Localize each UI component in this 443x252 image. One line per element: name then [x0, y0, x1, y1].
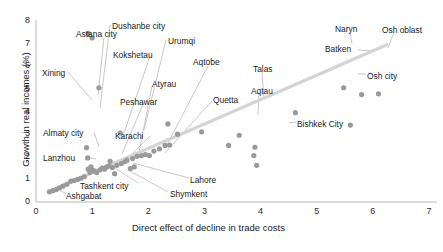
point-label: Tashkent city	[80, 181, 128, 191]
data-point	[237, 133, 242, 138]
leader-line	[68, 72, 92, 100]
data-point	[359, 92, 364, 97]
data-point	[110, 165, 115, 170]
data-point	[96, 85, 101, 90]
data-point	[130, 156, 135, 161]
data-point	[132, 164, 137, 169]
leader-line	[133, 163, 189, 178]
data-points-group	[47, 31, 381, 195]
point-label: Dushanbe city	[112, 21, 165, 31]
leader-line	[289, 122, 296, 123]
leader-line	[139, 86, 152, 152]
x-tick-label: 0	[28, 206, 44, 216]
point-label: Almaty city	[43, 128, 84, 138]
point-label: Naryn	[335, 24, 357, 34]
point-label: Aqtobe	[193, 57, 220, 67]
data-point	[157, 146, 162, 151]
data-point	[348, 122, 353, 127]
x-tick-label: 4	[253, 206, 269, 216]
point-label: Batken	[325, 44, 351, 54]
data-point	[293, 110, 298, 115]
point-label: Astana city	[76, 29, 117, 39]
y-tick-label: 8	[16, 15, 30, 25]
leader-line	[258, 93, 259, 115]
leader-line	[122, 102, 144, 154]
data-point	[85, 155, 90, 160]
data-point	[108, 159, 113, 164]
data-point	[175, 132, 180, 137]
data-point	[199, 129, 204, 134]
point-label: Quetta	[213, 95, 238, 105]
x-tick-label: 6	[365, 206, 381, 216]
point-label: Kokshetau	[113, 50, 153, 60]
data-point	[341, 85, 346, 90]
data-point	[82, 174, 87, 179]
point-label: Lahore	[190, 175, 216, 185]
point-label: Aqtau	[251, 86, 273, 96]
point-label: Karachi	[115, 131, 143, 141]
scatter-chart: 012345678 01234567 XiningAstana cityDush…	[0, 0, 443, 252]
data-point	[254, 163, 259, 168]
data-point	[163, 143, 168, 148]
x-tick-label: 7	[421, 206, 437, 216]
data-point	[112, 171, 117, 176]
data-point	[165, 121, 170, 126]
x-tick-label: 5	[309, 206, 325, 216]
data-point	[147, 153, 152, 158]
point-label: Osh city	[367, 71, 397, 81]
point-label: Bishkek City	[297, 119, 343, 129]
data-point	[376, 91, 381, 96]
point-label: Shymkent	[170, 189, 207, 199]
point-label: Osh oblast	[382, 25, 422, 35]
point-label: Atyrau	[152, 79, 176, 89]
data-point	[251, 153, 256, 158]
data-point	[167, 142, 172, 147]
point-label: Peshawar	[120, 97, 157, 107]
x-axis-title: Direct effect of decline in trade costs	[132, 222, 285, 233]
point-label: Lanzhou	[43, 153, 75, 163]
x-tick-label: 3	[196, 206, 212, 216]
y-axis-title: Growth in real incomes (%)	[20, 35, 31, 185]
leader-line	[128, 170, 168, 192]
point-label: Ashgabat	[66, 191, 101, 201]
x-tick-label: 2	[140, 206, 156, 216]
data-point	[151, 148, 156, 153]
x-tick-label: 1	[84, 206, 100, 216]
data-point	[134, 154, 139, 159]
y-tick-label: 0	[16, 196, 30, 206]
data-point	[252, 145, 257, 150]
point-label: Talas	[253, 64, 273, 74]
leader-line	[94, 132, 99, 147]
data-point	[114, 163, 119, 168]
data-point	[84, 145, 89, 150]
data-point	[226, 143, 231, 148]
point-label: Urumqi	[168, 36, 195, 46]
point-label: Xining	[42, 68, 65, 78]
data-point	[124, 158, 129, 163]
